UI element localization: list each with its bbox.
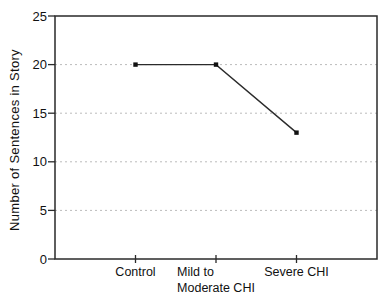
y-tick-label: 20	[0, 57, 47, 72]
y-tick-label: 10	[0, 154, 47, 169]
x-category-label: Control	[115, 264, 155, 280]
data-line	[136, 65, 297, 133]
line-chart-figure: Number of Sentences in Story 0510152025 …	[0, 0, 387, 308]
plot-border	[55, 16, 377, 259]
y-tick-label: 0	[0, 252, 47, 267]
data-point-marker	[133, 62, 137, 66]
x-category-label: Mild to Moderate CHI	[177, 264, 255, 296]
y-tick-label: 15	[0, 106, 47, 121]
x-category-label: Severe CHI	[264, 264, 329, 280]
data-point-marker	[214, 62, 218, 66]
y-tick-label: 25	[0, 9, 47, 24]
y-tick-label: 5	[0, 203, 47, 218]
plot-area	[0, 0, 387, 308]
data-point-marker	[294, 130, 298, 134]
